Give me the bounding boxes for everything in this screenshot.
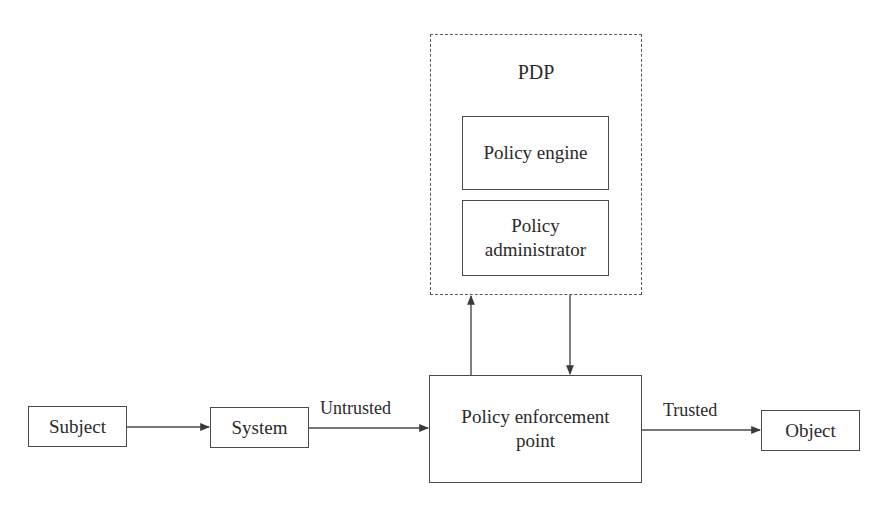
system-node: System	[210, 407, 309, 448]
subject-label: Subject	[49, 415, 106, 439]
policy-administrator-label-line1: Policy	[511, 214, 560, 238]
object-label: Object	[785, 419, 836, 443]
untrusted-edge-label: Untrusted	[320, 398, 391, 419]
policy-administrator-node: Policy administrator	[462, 200, 609, 276]
policy-administrator-label-line2: administrator	[485, 238, 586, 262]
trusted-edge-label: Trusted	[663, 400, 717, 421]
policy-engine-node: Policy engine	[462, 116, 609, 190]
policy-engine-label: Policy engine	[484, 141, 588, 165]
pep-label-line2: point	[516, 429, 555, 453]
pdp-title: PDP	[431, 61, 641, 84]
subject-node: Subject	[28, 406, 127, 447]
policy-enforcement-point-node: Policy enforcement point	[429, 375, 642, 483]
system-label: System	[232, 416, 288, 440]
pep-label-line1: Policy enforcement	[461, 405, 609, 429]
diagram-canvas: PDP Policy engine Policy administrator S…	[0, 0, 893, 509]
object-node: Object	[761, 410, 860, 451]
